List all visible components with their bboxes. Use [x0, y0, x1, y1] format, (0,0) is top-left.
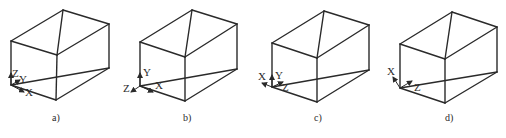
panels-group: ZYXa)YZXb)YXZc)XZd)	[11, 10, 497, 124]
box-edge	[317, 11, 324, 58]
isometric-boxes-figure: ZYXa)YZXb)YXZc)XZd)	[0, 0, 506, 138]
box-edge	[400, 12, 452, 44]
axis-label-z: Z	[414, 81, 421, 93]
axis-label-y: Y	[19, 73, 27, 85]
box-edge	[400, 44, 445, 59]
axis-label-x: X	[387, 65, 395, 77]
box-edge	[11, 41, 57, 55]
axis-label-z: Z	[282, 81, 289, 93]
panel-caption: d)	[445, 112, 453, 124]
panel-d: XZd)	[387, 12, 497, 124]
panel-caption: c)	[314, 112, 322, 124]
box-edge	[317, 25, 369, 58]
box-edge	[272, 87, 317, 102]
box-edge	[185, 10, 192, 57]
box-edge	[57, 10, 63, 55]
box-edge	[324, 11, 369, 25]
box-edge	[140, 10, 192, 42]
box-edge	[11, 85, 56, 100]
axis-arrow-x	[262, 83, 272, 87]
box-edge	[11, 10, 63, 41]
box-edge	[400, 88, 445, 103]
box-edge	[63, 10, 109, 24]
axis-label-z: Z	[123, 82, 130, 94]
axis-label-y: Y	[143, 66, 151, 78]
panel-a: ZYXa)	[11, 10, 109, 124]
box-edge	[272, 43, 317, 58]
box-edge	[272, 11, 324, 43]
panel-caption: b)	[183, 112, 191, 124]
panel-caption: a)	[52, 112, 60, 124]
axis-label-x: X	[155, 79, 163, 91]
box-edge	[445, 12, 452, 59]
axis-label-y: Y	[275, 69, 283, 81]
box-edge	[452, 12, 497, 27]
axis-label-z: Z	[12, 67, 19, 79]
axis-arrow-x	[393, 77, 400, 88]
axis-label-x: X	[25, 86, 33, 98]
box-edge	[140, 42, 185, 57]
box-edge	[445, 27, 497, 59]
box-edge	[57, 24, 109, 55]
panel-b: YZXb)	[123, 10, 237, 124]
axis-arrow-z	[131, 86, 140, 92]
box-edge	[185, 24, 237, 57]
panel-c: YXZc)	[258, 11, 369, 124]
axis-label-x: X	[258, 70, 266, 82]
box-edge	[192, 10, 237, 24]
